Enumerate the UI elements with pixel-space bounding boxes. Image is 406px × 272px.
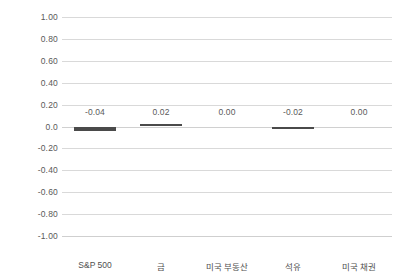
y-tick-label: 0.40 xyxy=(12,78,58,88)
bar-value-label: 0.02 xyxy=(153,107,170,117)
y-tick-label: 0.80 xyxy=(12,34,58,44)
y-tick-label: 0.60 xyxy=(12,56,58,66)
y-tick-label: -1.00 xyxy=(12,231,58,241)
y-tick-label: 1.00 xyxy=(12,12,58,22)
y-tick-label: -0.60 xyxy=(12,187,58,197)
gridline xyxy=(62,105,392,106)
plot-area: -0.04 0.02 0.00 -0.02 0.00 S&P 500 금 미국 … xyxy=(62,17,392,236)
bar-sp500 xyxy=(74,127,116,131)
x-tick-label-gold: 금 xyxy=(157,260,165,272)
x-tick-label-us-bond: 미국 채권 xyxy=(342,260,376,272)
gridline xyxy=(62,192,392,193)
gridline xyxy=(62,170,392,171)
bar-value-label: 0.00 xyxy=(219,107,236,117)
y-tick-label: 0.0 xyxy=(12,122,58,132)
gridline xyxy=(62,148,392,149)
x-axis-line xyxy=(62,236,392,237)
x-tick-label-sp500: S&P 500 xyxy=(78,260,111,270)
y-tick-label: -0.20 xyxy=(12,143,58,153)
y-tick-label: -0.40 xyxy=(12,165,58,175)
bar-value-label: -0.02 xyxy=(283,107,303,117)
x-tick-label-oil: 석유 xyxy=(285,260,301,272)
gridline xyxy=(62,17,392,18)
x-tick-label-us-reit: 미국 부동산 xyxy=(206,260,248,272)
bar-gold xyxy=(140,124,182,126)
bar-value-label: -0.04 xyxy=(85,107,105,117)
gridline xyxy=(62,61,392,62)
y-tick-label: 0.20 xyxy=(12,100,58,110)
y-tick-label: -0.80 xyxy=(12,209,58,219)
gridline xyxy=(62,83,392,84)
bar-value-label: 0.00 xyxy=(351,107,368,117)
bar-oil xyxy=(272,127,314,129)
gridline xyxy=(62,39,392,40)
gridline xyxy=(62,214,392,215)
